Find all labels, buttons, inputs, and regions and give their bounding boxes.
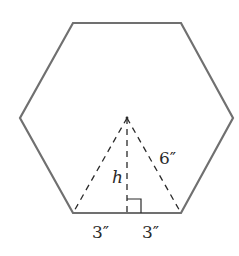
left-base-label: 3″: [92, 222, 109, 242]
right-angle-marker: [127, 199, 141, 213]
height-label: h: [112, 167, 123, 187]
slant-side-label: 6″: [159, 148, 176, 168]
center-point: [126, 117, 129, 120]
right-base-label: 3″: [142, 222, 159, 242]
hexagon-diagram: h 6″ 3″ 3″: [0, 0, 239, 256]
dashed-left-radius: [73, 118, 127, 213]
